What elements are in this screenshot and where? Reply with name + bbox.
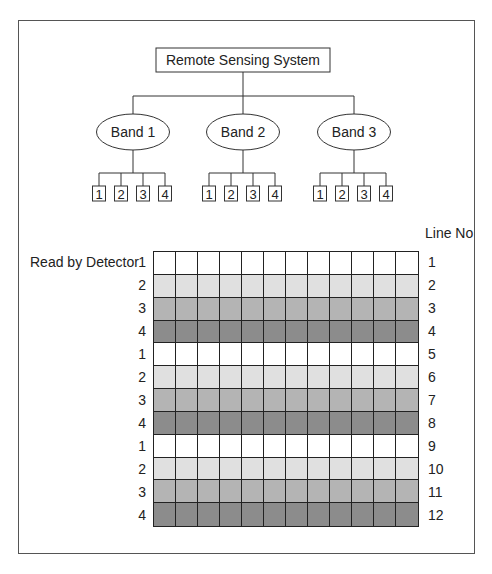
pixel-cell: [242, 480, 264, 503]
detector-number: 2: [138, 274, 146, 297]
pixel-cell: [220, 366, 242, 389]
pixel-cell: [308, 412, 330, 435]
pixel-cell: [220, 389, 242, 412]
pixel-cell: [330, 503, 352, 526]
pixel-cell: [264, 298, 286, 321]
pixel-cell: [198, 366, 220, 389]
pixel-cell: [154, 480, 176, 503]
pixel-cell: [286, 503, 308, 526]
pixel-cell: [176, 366, 198, 389]
pixel-cell: [264, 435, 286, 458]
detector-label: 2: [227, 187, 234, 202]
detector-label: 4: [382, 187, 389, 202]
pixel-cell: [154, 298, 176, 321]
pixel-cell: [154, 366, 176, 389]
pixel-cell: [264, 252, 286, 275]
pixel-cell: [308, 252, 330, 275]
pixel-cell: [264, 366, 286, 389]
pixel-cell: [286, 252, 308, 275]
pixel-cell: [396, 321, 418, 344]
pixel-cell: [220, 275, 242, 298]
pixel-cell: [330, 389, 352, 412]
line-number: 8: [428, 412, 436, 435]
line-number: 1: [428, 251, 436, 274]
pixel-cell: [176, 435, 198, 458]
root-node: Remote Sensing System: [156, 48, 330, 72]
detector-number: 2: [138, 458, 146, 481]
line-number: 7: [428, 389, 436, 412]
pixel-cell: [308, 275, 330, 298]
pixel-cell: [154, 343, 176, 366]
pixel-cell: [154, 275, 176, 298]
pixel-cell: [286, 321, 308, 344]
pixel-cell: [242, 435, 264, 458]
pixel-cell: [242, 298, 264, 321]
pixel-cell: [396, 389, 418, 412]
pixel-cell: [352, 252, 374, 275]
detector-label: 1: [95, 187, 102, 202]
pixel-cell: [242, 389, 264, 412]
pixel-cell: [154, 412, 176, 435]
pixel-cell: [374, 252, 396, 275]
line-number: 6: [428, 366, 436, 389]
band-node: Band 31234: [314, 96, 393, 202]
pixel-cell: [374, 480, 396, 503]
detector-label: 1: [316, 187, 323, 202]
detector-number: 3: [138, 481, 146, 504]
pixel-cell: [396, 412, 418, 435]
pixel-cell: [198, 321, 220, 344]
detector-number: 2: [138, 366, 146, 389]
pixel-cell: [396, 343, 418, 366]
pixel-cell: [198, 343, 220, 366]
pixel-cell: [286, 389, 308, 412]
pixel-cell: [264, 480, 286, 503]
pixel-cell: [396, 275, 418, 298]
pixel-cell: [308, 503, 330, 526]
scan-line-grid: [153, 251, 419, 527]
pixel-cell: [374, 435, 396, 458]
band-label: Band 1: [111, 124, 156, 140]
pixel-cell: [352, 298, 374, 321]
pixel-cell: [352, 321, 374, 344]
pixel-cell: [308, 298, 330, 321]
pixel-cell: [154, 435, 176, 458]
pixel-cell: [308, 343, 330, 366]
pixel-cell: [154, 389, 176, 412]
detector-number: 3: [138, 389, 146, 412]
pixel-cell: [352, 389, 374, 412]
pixel-cell: [264, 389, 286, 412]
detector-number: 4: [138, 412, 146, 435]
pixel-cell: [352, 275, 374, 298]
detector-label: 2: [117, 187, 124, 202]
pixel-cell: [374, 343, 396, 366]
pixel-cell: [374, 458, 396, 481]
line-number: 9: [428, 435, 436, 458]
pixel-cell: [176, 389, 198, 412]
pixel-cell: [396, 458, 418, 481]
pixel-cell: [264, 458, 286, 481]
line-number: 12: [428, 504, 444, 527]
pixel-cell: [352, 480, 374, 503]
detector-number: 3: [138, 297, 146, 320]
pixel-cell: [352, 435, 374, 458]
pixel-cell: [286, 343, 308, 366]
pixel-cell: [220, 298, 242, 321]
pixel-cell: [330, 412, 352, 435]
pixel-cell: [154, 503, 176, 526]
pixel-cell: [308, 458, 330, 481]
pixel-cell: [374, 503, 396, 526]
pixel-cell: [374, 298, 396, 321]
pixel-cell: [330, 480, 352, 503]
pixel-cell: [396, 435, 418, 458]
pixel-cell: [308, 480, 330, 503]
pixel-cell: [176, 298, 198, 321]
pixel-cell: [220, 503, 242, 526]
detector-number: 1: [138, 251, 146, 274]
pixel-cell: [242, 503, 264, 526]
pixel-cell: [264, 503, 286, 526]
pixel-cell: [286, 298, 308, 321]
pixel-cell: [374, 389, 396, 412]
detector-number: 4: [138, 504, 146, 527]
pixel-cell: [308, 435, 330, 458]
pixel-cell: [176, 412, 198, 435]
